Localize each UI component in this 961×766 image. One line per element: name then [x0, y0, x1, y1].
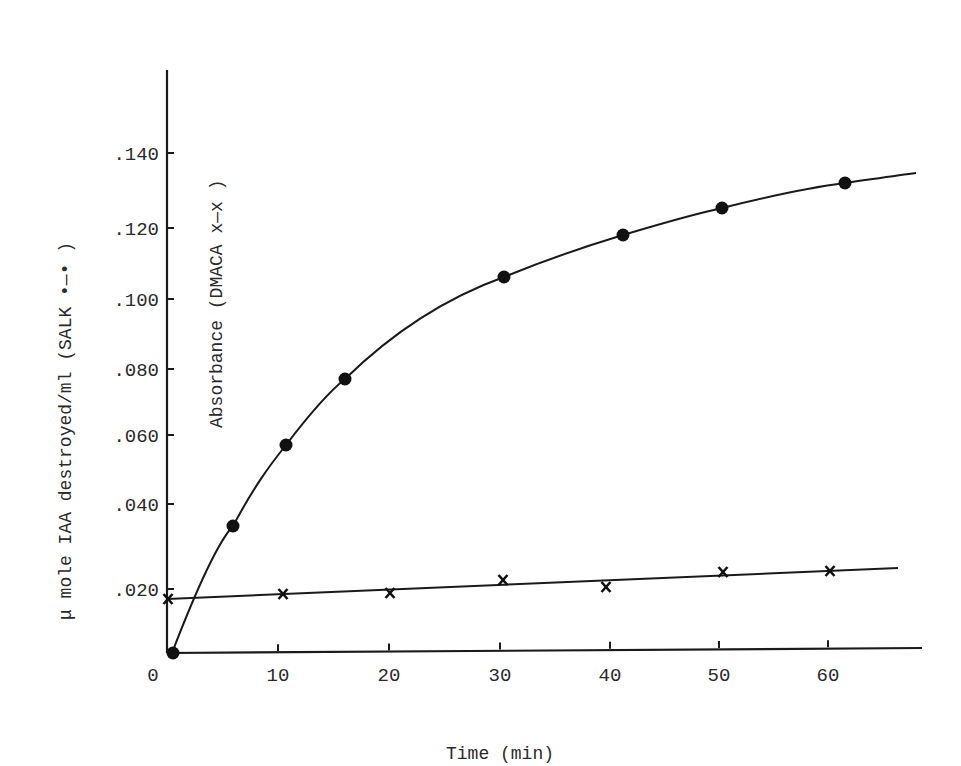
salk-data-point [339, 373, 352, 386]
x-tick-label: 0 [147, 665, 158, 687]
salk-data-point [716, 202, 729, 215]
y-tick-label: .120 [113, 219, 159, 241]
y-axis-title-outer: μ mole IAA destroyed/ml (SALK •—• ) [56, 242, 76, 620]
y-tick-label: .040 [113, 495, 159, 517]
y-axis-title-inner: Absorbance (DMACA x—x ) [207, 180, 227, 428]
salk-data-point [498, 271, 511, 284]
y-tick-label: .020 [113, 580, 159, 602]
x-tick-label: 40 [599, 665, 622, 687]
dmaca-data-point [499, 575, 508, 585]
dmaca-markers [164, 566, 835, 604]
y-tick-label: .140 [113, 144, 159, 166]
dmaca-data-point [602, 582, 611, 592]
axes [167, 70, 922, 653]
salk-data-point [280, 439, 293, 452]
salk-data-point [839, 177, 852, 190]
dmaca-fitted-line [167, 568, 898, 599]
y-tick-label: .080 [113, 360, 159, 382]
y-tick-label: .060 [113, 426, 159, 448]
x-tick-label: 30 [489, 665, 512, 687]
salk-fitted-curve [172, 173, 916, 653]
y-ticks: .020.040.060.080.100.120.140 [113, 144, 174, 602]
salk-data-point [167, 647, 180, 660]
x-ticks: 0102030405060 [147, 640, 839, 687]
x-tick-label: 60 [817, 665, 840, 687]
x-axis-title: Time (min) [446, 744, 554, 764]
x-tick-label: 20 [378, 665, 401, 687]
x-tick-label: 10 [267, 665, 290, 687]
salk-data-point [227, 520, 240, 533]
salk-data-point [617, 229, 630, 242]
chart: .020.040.060.080.100.120.140 01020304050… [0, 0, 961, 766]
y-tick-label: .100 [113, 290, 159, 312]
salk-markers [167, 177, 852, 660]
x-tick-label: 50 [708, 665, 731, 687]
x-axis [167, 648, 922, 653]
